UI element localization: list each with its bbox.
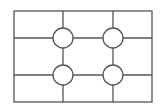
rule-of-thirds-diagram [0,0,162,105]
frame [14,11,152,102]
intersection-circle-bottom-right [103,65,123,85]
intersection-circle-top-left [53,28,73,48]
intersection-circle-top-right [103,28,123,48]
intersection-circle-bottom-left [53,65,73,85]
